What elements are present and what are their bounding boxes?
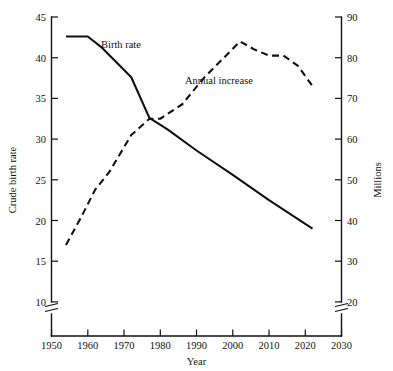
x-axis-title: Year (187, 356, 207, 367)
series-line-annual-increase (66, 41, 313, 245)
right-tick-label: 20 (347, 297, 358, 308)
right-tick-label: 50 (347, 175, 358, 186)
x-tick-label: 2030 (331, 340, 352, 351)
x-axis: 1950 1960 1970 1980 1990 2000 2010 2020 … (41, 330, 352, 368)
chart-figure: 45 40 35 30 25 20 15 10 Crude birth rate (0, 0, 393, 371)
x-tick-label: 2020 (295, 340, 316, 351)
series-label-birth-rate: Birth rate (101, 39, 141, 50)
right-axis-ticks (335, 17, 342, 302)
right-tick-label: 90 (347, 12, 358, 23)
left-tick-label: 45 (36, 12, 47, 23)
right-axis-tick-labels: 90 80 70 60 50 40 30 20 (347, 12, 358, 308)
left-axis-ticks (52, 17, 59, 302)
left-tick-label: 40 (36, 53, 47, 64)
left-tick-label: 25 (36, 175, 47, 186)
plot-area: 45 40 35 30 25 20 15 10 Crude birth rate (7, 12, 383, 367)
x-tick-label: 1970 (114, 340, 135, 351)
right-tick-label: 40 (347, 216, 358, 227)
y-axis-title: Crude birth rate (7, 146, 18, 213)
left-tick-label: 30 (36, 134, 47, 145)
left-axis: 45 40 35 30 25 20 15 10 Crude birth rate (7, 12, 58, 336)
series-annotations: Birth rate Annual increase (101, 39, 253, 86)
right-tick-label: 30 (347, 256, 358, 267)
right-tick-label: 80 (347, 53, 358, 64)
left-axis-tick-labels: 45 40 35 30 25 20 15 10 (36, 12, 47, 308)
chart-canvas: 45 40 35 30 25 20 15 10 Crude birth rate (0, 0, 393, 371)
x-tick-label: 1960 (77, 340, 98, 351)
x-tick-label: 1990 (186, 340, 207, 351)
x-tick-label: 2000 (222, 340, 243, 351)
left-axis-break-icon (45, 304, 58, 312)
right-tick-label: 60 (347, 134, 358, 145)
series-line-birth-rate (66, 37, 313, 229)
x-tick-label: 1950 (41, 340, 62, 351)
x-axis-tick-labels: 1950 1960 1970 1980 1990 2000 2010 2020 … (41, 340, 352, 351)
x-tick-label: 1980 (150, 340, 171, 351)
y2-axis-title: Millions (372, 162, 383, 198)
left-tick-label: 10 (36, 297, 47, 308)
right-axis: 90 80 70 60 50 40 30 20 Millions (335, 12, 383, 336)
left-tick-label: 20 (36, 216, 47, 227)
series-label-annual-increase: Annual increase (185, 75, 253, 86)
left-tick-label: 15 (36, 256, 47, 267)
left-tick-label: 35 (36, 93, 47, 104)
right-tick-label: 70 (347, 93, 358, 104)
x-axis-ticks (52, 330, 342, 337)
data-series (66, 37, 313, 245)
x-tick-label: 2010 (259, 340, 280, 351)
